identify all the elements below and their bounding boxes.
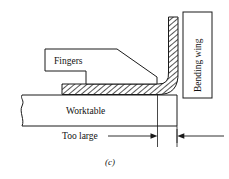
fingers-body xyxy=(45,49,157,84)
too-large-label: Too large xyxy=(62,131,98,141)
bending-wing-group: Bending wing xyxy=(183,12,212,98)
worktable-label: Worktable xyxy=(66,106,105,116)
bending-diagram: Worktable Fingers Bending wing xyxy=(0,0,229,179)
bending-wing-label: Bending wing xyxy=(193,38,203,92)
fingers-label: Fingers xyxy=(54,56,83,66)
arrow-head-right-inner xyxy=(177,133,184,139)
figure-caption: (c) xyxy=(105,157,115,167)
worktable-group: Worktable xyxy=(21,95,177,126)
arrow-head-left-inner xyxy=(151,133,158,139)
figure-canvas: Worktable Fingers Bending wing xyxy=(0,0,229,179)
fingers-group: Fingers xyxy=(45,49,157,84)
